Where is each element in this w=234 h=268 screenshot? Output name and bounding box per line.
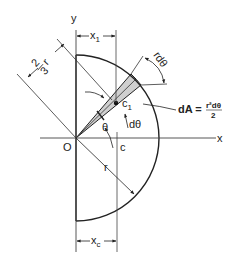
two-thirds-r-dimension: 2 3 r — [17, 39, 112, 138]
x-axis-label: x — [217, 132, 223, 144]
d-theta-arrow — [125, 114, 128, 128]
svg-text:x1: x1 — [90, 29, 101, 44]
origin-label: O — [63, 141, 72, 153]
x1-dimension: x1 — [77, 29, 116, 103]
svg-text:xc: xc — [91, 234, 101, 249]
xc-dimension: xc — [77, 234, 116, 249]
y-axis-label: y — [71, 12, 77, 24]
d-theta-label: dθ — [129, 118, 141, 130]
centroid-c1-label: c1 — [122, 97, 133, 112]
centroid-c-label: c — [120, 141, 126, 153]
svg-text:rdθ: rdθ — [151, 49, 170, 69]
semicircle-centroid-diagram: y x O x1 2 3 r c1 θ dθ rdθ — [0, 0, 234, 268]
svg-text:2: 2 — [211, 111, 216, 120]
svg-text:r²dθ: r²dθ — [206, 101, 221, 110]
theta-label: θ — [102, 121, 108, 133]
radius-label: r — [104, 161, 108, 173]
svg-text:dA =: dA = — [178, 103, 202, 115]
wedge-leader — [85, 92, 104, 98]
